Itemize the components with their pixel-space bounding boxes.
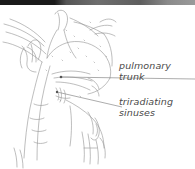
label-layer: pulmonary trunk triradiating sinuses [0, 0, 195, 169]
label-pulmonary-trunk-line2: trunk [119, 71, 171, 82]
label-pulmonary-trunk-line1: pulmonary [119, 60, 171, 71]
label-triradiating-sinuses-line1: triradiating [119, 96, 173, 107]
label-triradiating-sinuses-line2: sinuses [119, 107, 173, 118]
label-pulmonary-trunk: pulmonary trunk [119, 60, 171, 82]
label-triradiating-sinuses: triradiating sinuses [119, 96, 173, 118]
anatomy-figure: pulmonary trunk triradiating sinuses [0, 0, 195, 169]
